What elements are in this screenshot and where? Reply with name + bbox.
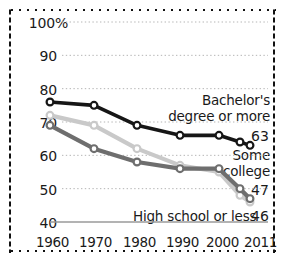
data-point xyxy=(47,112,54,119)
data-point xyxy=(134,122,141,129)
data-point xyxy=(134,159,141,166)
data-point xyxy=(216,132,223,139)
chart-figure: 100% 90 80 70 60 50 40 1960 1970 1980 19… xyxy=(0,0,284,261)
series-high-school-or-less xyxy=(47,112,254,205)
data-point xyxy=(91,145,98,152)
data-point xyxy=(237,139,244,146)
data-point xyxy=(47,99,54,106)
data-point xyxy=(134,145,141,152)
data-point xyxy=(237,185,244,192)
data-point xyxy=(47,122,54,129)
data-point xyxy=(216,165,223,172)
data-point xyxy=(91,102,98,109)
chart-plot-area xyxy=(0,0,284,261)
data-point xyxy=(247,142,254,149)
data-point xyxy=(177,165,184,172)
data-point xyxy=(247,195,254,202)
data-point xyxy=(91,122,98,129)
data-point xyxy=(177,132,184,139)
